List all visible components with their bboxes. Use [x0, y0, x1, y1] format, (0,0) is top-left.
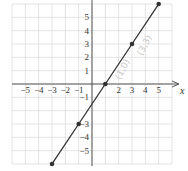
x-tick-label: −4: [34, 85, 44, 95]
annotation-point-1-0: (1,0): [113, 57, 132, 81]
y-tick-label: 2: [85, 52, 90, 62]
y-tick-label: −1: [79, 92, 89, 102]
data-point: [156, 2, 161, 7]
x-tick-label: −3: [47, 85, 57, 95]
y-tick-label: −4: [79, 132, 89, 142]
annotation-point-3-3: (3,3): [135, 33, 154, 57]
y-tick-label: −5: [79, 146, 89, 156]
line-chart: x −5−4−3−2−1234554321−1−3−4−5 (1,0)(3,3): [0, 0, 188, 171]
data-point: [130, 42, 135, 47]
y-tick-label: 4: [85, 26, 90, 36]
axes: x: [12, 0, 185, 166]
data-point: [50, 162, 55, 167]
y-tick-label: 1: [85, 66, 90, 76]
x-tick-label: 2: [116, 85, 121, 95]
x-tick-label: 3: [130, 85, 135, 95]
y-tick-label: 5: [85, 12, 90, 22]
x-axis-label: x: [179, 85, 185, 96]
x-tick-label: 4: [143, 85, 148, 95]
y-tick-label: 3: [85, 39, 90, 49]
x-tick-label: −5: [21, 85, 31, 95]
x-tick-label: −2: [61, 85, 71, 95]
data-point: [103, 82, 108, 87]
x-tick-label: 5: [156, 85, 161, 95]
data-point: [76, 122, 81, 127]
